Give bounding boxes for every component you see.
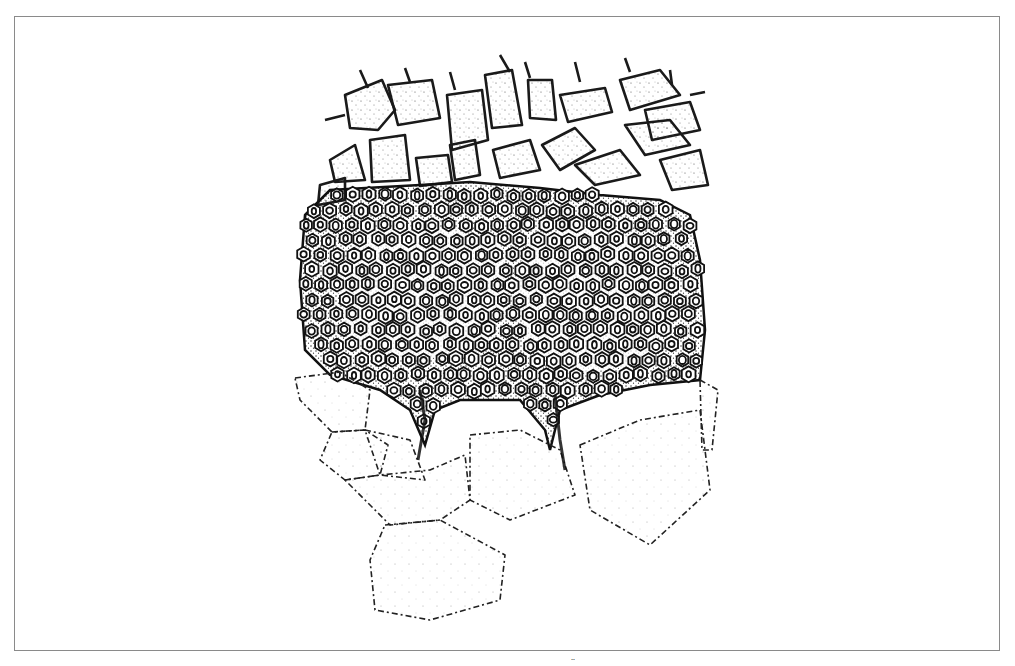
upper-parenchyma-layer xyxy=(318,55,708,205)
lower-parenchyma-layer xyxy=(295,372,718,620)
tissue-cross-section-illustration xyxy=(0,0,1015,666)
